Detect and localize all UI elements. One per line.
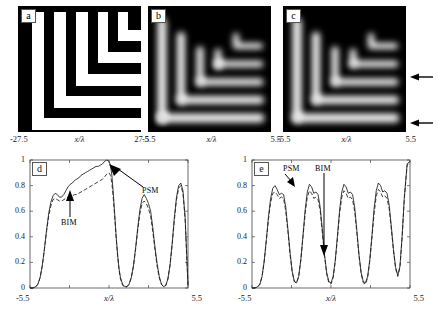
plot-d-psm-pointer <box>105 164 145 190</box>
y-tick-label: 0.2 <box>3 257 25 266</box>
plot-e-x-max: 5.5 <box>413 293 424 303</box>
plot-d-x-axis: -5.5 x/λ 5.5 <box>16 293 202 306</box>
panel-c-axis-max: 5.5 <box>405 134 416 144</box>
curve-bim <box>30 173 188 288</box>
upper-cutline-arrow <box>410 68 434 78</box>
panel-a-axis-label: x/λ <box>10 134 149 144</box>
arrow-left-icon <box>410 118 434 128</box>
panel-c-axis: -5.5 x/λ 5.5 <box>277 134 416 147</box>
panel-c-aerial-image: c <box>283 6 406 132</box>
arrow-left-icon <box>410 72 434 82</box>
panel-b-axis: -5.5 x/λ 5.5 <box>142 134 281 147</box>
plot-d-label: d <box>32 162 47 176</box>
plot-e-psm-pointer <box>283 173 297 189</box>
y-tick-label: 0.6 <box>225 206 247 215</box>
plot-e: e <box>250 158 412 290</box>
y-tick-label: 0.6 <box>3 206 25 215</box>
plot-d-x-max: 5.5 <box>191 293 202 303</box>
mask-pattern-graphic <box>18 6 141 132</box>
plot-e-x-label: x/λ <box>238 293 424 303</box>
panel-a-axis: -27.5 x/λ 27.5 <box>10 134 149 147</box>
y-tick-label: 1 <box>3 155 25 164</box>
y-tick-label: 0 <box>3 283 25 292</box>
panel-b-axis-label: x/λ <box>142 134 281 144</box>
y-tick-label: 0.8 <box>3 181 25 190</box>
aerial-image-c-graphic <box>283 6 406 132</box>
y-tick-label: 0.4 <box>3 232 25 241</box>
plot-d-x-label: x/λ <box>16 293 202 303</box>
plot-e-bim-pointer <box>318 173 330 257</box>
panel-c-axis-label: x/λ <box>277 134 416 144</box>
panel-b-aerial-image: b <box>148 6 271 132</box>
plot-d-annotation-bim: BIM <box>61 218 77 227</box>
plot-e-graphic <box>250 158 412 290</box>
y-tick-label: 0.2 <box>225 257 247 266</box>
lower-cutline-arrow <box>410 114 434 124</box>
aerial-image-b-graphic <box>148 6 271 132</box>
panel-a-mask-image: a <box>18 6 141 132</box>
panel-b-label: b <box>151 9 166 23</box>
plot-e-annotation-psm: PSM <box>283 164 300 173</box>
y-tick-label: 0 <box>225 283 247 292</box>
panel-a-label: a <box>21 9 36 23</box>
plot-e-x-axis: -5.5 x/λ 5.5 <box>238 293 424 306</box>
panel-c-label: c <box>286 9 301 23</box>
y-tick-label: 0.8 <box>225 181 247 190</box>
plot-e-label: e <box>254 162 269 176</box>
plot-e-annotation-bim: BIM <box>315 164 331 173</box>
plot-frame <box>252 160 410 288</box>
plot-d-bim-pointer <box>64 190 76 218</box>
figure-root: a -27.5 x/λ 27.5 <box>0 0 437 320</box>
curve-psm <box>252 161 410 288</box>
y-tick-label: 0.4 <box>225 232 247 241</box>
curve-bim <box>252 163 410 288</box>
y-tick-label: 1 <box>225 155 247 164</box>
